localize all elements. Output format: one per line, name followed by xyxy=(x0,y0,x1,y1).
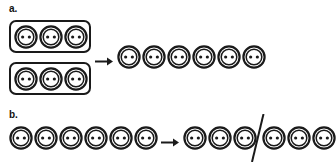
sewing-button-icon xyxy=(134,126,158,150)
sewing-button-icon xyxy=(208,126,232,150)
sewing-button-icon xyxy=(233,126,257,150)
sewing-button-icon xyxy=(64,67,88,91)
sewing-button-icon xyxy=(312,126,336,150)
sewing-button-icon xyxy=(9,126,33,150)
sewing-button-icon xyxy=(59,126,83,150)
sewing-button-icon xyxy=(287,126,311,150)
sewing-button-icon xyxy=(14,25,38,49)
sewing-button-icon xyxy=(262,126,286,150)
sewing-button-icon xyxy=(39,25,63,49)
sewing-button-icon xyxy=(167,45,191,69)
part-label-b: b. xyxy=(9,110,18,120)
sewing-button-icon xyxy=(64,25,88,49)
sewing-button-icon xyxy=(14,67,38,91)
part-label-a: a. xyxy=(9,4,17,14)
sewing-button-icon xyxy=(39,67,63,91)
sewing-button-icon xyxy=(117,45,141,69)
arrow-right-icon-a xyxy=(95,57,113,66)
sewing-button-icon xyxy=(217,45,241,69)
sewing-button-icon xyxy=(109,126,133,150)
sewing-button-icon xyxy=(142,45,166,69)
arrow-right-icon-b xyxy=(161,138,179,147)
sewing-button-icon xyxy=(242,45,266,69)
sewing-button-icon xyxy=(34,126,58,150)
sewing-button-icon xyxy=(84,126,108,150)
sewing-button-icon xyxy=(192,45,216,69)
sewing-button-icon xyxy=(183,126,207,150)
